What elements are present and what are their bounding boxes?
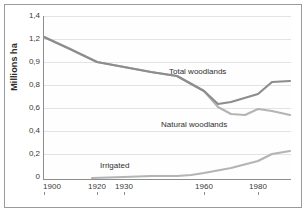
series-label-irrigated: Irrigated	[100, 161, 129, 170]
y-tick-label: 0,2	[29, 150, 40, 158]
x-tick-mark	[44, 192, 45, 195]
chart-figure: Millions ha 1,4 1,2 0,9 0,8 0,6 0,4 0,2 …	[0, 0, 308, 214]
series-line-total-woodlands	[44, 37, 290, 104]
y-tick-label: 1,2	[29, 35, 40, 43]
y-axis-tick-labels: 1,4 1,2 0,9 0,8 0,6 0,4 0,2 0	[14, 16, 40, 180]
x-tick-label: 1960	[195, 183, 213, 191]
series-label-total-woodlands: Total woodlands	[169, 67, 226, 76]
y-tick-label: 0,8	[29, 81, 40, 89]
x-tick-mark	[204, 192, 205, 195]
series-lines	[43, 16, 291, 180]
plot-area: Total woodlands Natural woodlands Irriga…	[43, 16, 291, 180]
x-tick-mark	[124, 192, 125, 195]
y-tick-label: 0,9	[29, 58, 40, 66]
x-tick-mark	[258, 192, 259, 195]
x-tick-label: 1930	[115, 183, 133, 191]
x-tick-mark	[97, 192, 98, 195]
y-tick-label: 0	[36, 173, 40, 181]
x-tick-label: 1900	[43, 183, 61, 191]
y-tick-label: 1,4	[29, 12, 40, 20]
y-tick-label: 0,6	[29, 104, 40, 112]
x-tick-label: 1980	[249, 183, 267, 191]
series-label-natural-woodlands: Natural woodlands	[161, 120, 227, 129]
series-line-natural-woodlands	[44, 37, 290, 115]
x-axis-tick-labels: 1900 1920 1930 1960 1980	[43, 183, 291, 195]
x-tick-label: 1920	[88, 183, 106, 191]
y-tick-label: 0,4	[29, 127, 40, 135]
